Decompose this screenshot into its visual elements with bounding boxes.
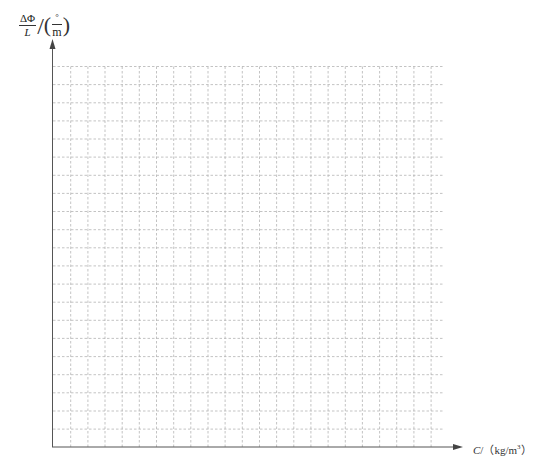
y-label-close-paren: ) xyxy=(63,12,70,38)
chart-canvas xyxy=(0,0,534,469)
x-axis-arrow-icon xyxy=(453,444,463,450)
x-unit-close: ） xyxy=(521,444,532,456)
y-quantity-denominator: L xyxy=(25,26,31,38)
y-label-slash: / xyxy=(37,13,44,40)
x-unit-open: /（kg/m xyxy=(480,444,517,456)
y-quantity-numerator: ΔΦ xyxy=(19,13,36,26)
y-unit-numerator: ° xyxy=(52,13,62,25)
grid-lines xyxy=(53,67,444,448)
y-axis xyxy=(50,39,56,447)
y-unit-fraction: ° m xyxy=(52,13,62,38)
y-quantity-fraction: ΔΦ L xyxy=(19,13,36,38)
y-unit-denominator: m xyxy=(52,25,61,38)
x-axis-label: C/（kg/m3） xyxy=(473,441,532,457)
y-label-open-paren: ( xyxy=(44,12,51,38)
y-axis-label: ΔΦ L / ( ° m ) xyxy=(19,8,70,42)
x-axis xyxy=(52,444,463,450)
